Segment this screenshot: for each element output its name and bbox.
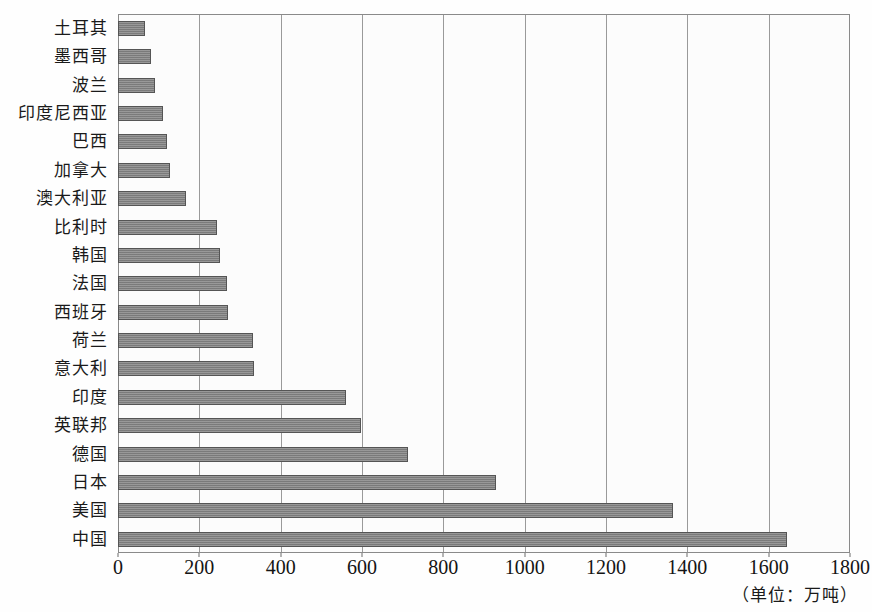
bar-row: [118, 525, 850, 554]
bar: [118, 163, 170, 178]
bar-row: [118, 99, 850, 128]
bar-row: [118, 241, 850, 270]
category-label: 中国: [72, 525, 108, 554]
bar-row: [118, 42, 850, 71]
category-label: 墨西哥: [54, 42, 108, 71]
x-tick-label: 1600: [749, 556, 789, 579]
bar-row: [118, 468, 850, 497]
bar-row: [118, 298, 850, 327]
bar: [118, 390, 346, 405]
x-tick-label: 1400: [667, 556, 707, 579]
bar: [118, 248, 220, 263]
bar-row: [118, 269, 850, 298]
x-tick-label: 400: [266, 556, 296, 579]
x-tick-label: 1200: [586, 556, 626, 579]
x-tick-label: 1800: [830, 556, 870, 579]
bar: [118, 305, 228, 320]
x-tick-label: 200: [184, 556, 214, 579]
x-tick-label: 600: [347, 556, 377, 579]
bar: [118, 418, 361, 433]
bar: [118, 49, 151, 64]
category-label: 加拿大: [54, 156, 108, 185]
bar: [118, 503, 673, 518]
category-label: 韩国: [72, 241, 108, 270]
bar-row: [118, 14, 850, 43]
unit-note: （单位：万吨）: [732, 581, 858, 606]
bar-chart: 土耳其墨西哥波兰印度尼西亚巴西加拿大澳大利亚比利时韩国法国西班牙荷兰意大利印度英…: [0, 0, 872, 612]
bar: [118, 220, 217, 235]
category-label: 美国: [72, 496, 108, 525]
category-label: 波兰: [72, 71, 108, 100]
bar-row: [118, 354, 850, 383]
bar-row: [118, 383, 850, 412]
bar: [118, 333, 253, 348]
bar: [118, 475, 496, 490]
x-tick-label: 1000: [505, 556, 545, 579]
bar: [118, 21, 145, 36]
category-label: 比利时: [54, 213, 108, 242]
category-label: 意大利: [54, 354, 108, 383]
category-label: 印度尼西亚: [18, 99, 108, 128]
bar: [118, 191, 186, 206]
bar-row: [118, 71, 850, 100]
bar: [118, 447, 408, 462]
category-label: 印度: [72, 383, 108, 412]
category-label: 西班牙: [54, 298, 108, 327]
category-label: 荷兰: [72, 326, 108, 355]
bar: [118, 276, 227, 291]
x-tick-label: 0: [113, 556, 123, 579]
bar-row: [118, 496, 850, 525]
bar-row: [118, 411, 850, 440]
bar: [118, 78, 155, 93]
bar-row: [118, 184, 850, 213]
bar: [118, 361, 254, 376]
category-label: 巴西: [72, 127, 108, 156]
bar: [118, 532, 787, 547]
bar-row: [118, 213, 850, 242]
category-label: 澳大利亚: [36, 184, 108, 213]
category-label: 英联邦: [54, 411, 108, 440]
category-label: 法国: [72, 269, 108, 298]
category-label: 日本: [72, 468, 108, 497]
bar-row: [118, 127, 850, 156]
x-tick-label: 800: [428, 556, 458, 579]
bar: [118, 134, 167, 149]
bar-row: [118, 156, 850, 185]
bar-row: [118, 440, 850, 469]
category-label: 土耳其: [54, 14, 108, 43]
bar-series: [118, 14, 850, 553]
category-label: 德国: [72, 440, 108, 469]
bar-row: [118, 326, 850, 355]
bar: [118, 106, 163, 121]
category-axis: 土耳其墨西哥波兰印度尼西亚巴西加拿大澳大利亚比利时韩国法国西班牙荷兰意大利印度英…: [0, 14, 112, 553]
